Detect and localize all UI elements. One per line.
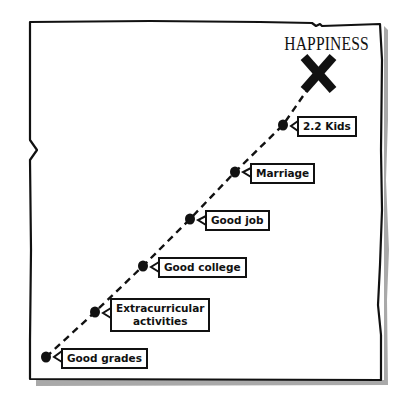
label-marriage: Marriage	[250, 163, 315, 184]
label-good-college: Good college	[158, 257, 247, 278]
label-extracurricular: Extracurricular activities	[110, 298, 210, 332]
label-good-job: Good job	[205, 210, 270, 231]
dot-good-grades	[41, 352, 51, 363]
treasure-map-diagram: HAPPINESS Good grades Extracurricular ac…	[0, 0, 406, 399]
label-kids: 2.2 Kids	[297, 116, 357, 137]
dot-extracurricular	[90, 307, 100, 318]
dot-kids	[278, 120, 288, 131]
label-good-grades: Good grades	[61, 348, 148, 369]
dot-marriage	[230, 167, 240, 178]
dot-good-job	[185, 214, 195, 225]
label-extracurricular-line2: activities	[116, 315, 204, 328]
dot-good-college	[138, 261, 148, 272]
happiness-title: HAPPINESS	[284, 33, 359, 55]
label-extracurricular-line1: Extracurricular	[116, 302, 204, 315]
map-drawing	[0, 0, 406, 399]
